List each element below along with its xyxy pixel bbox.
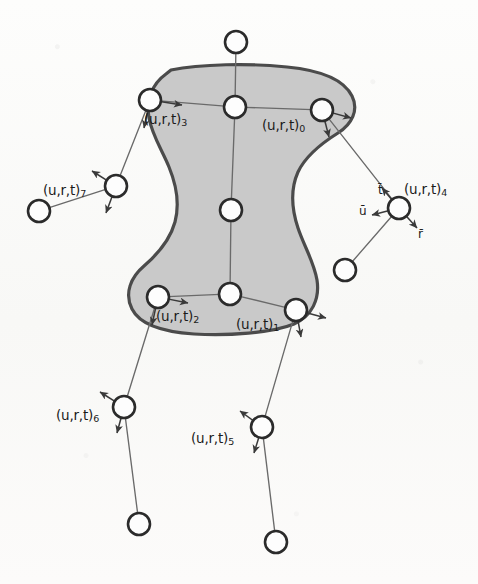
label-index: 3: [181, 117, 187, 128]
vec-u: ū: [359, 205, 367, 217]
link-line: [120, 109, 147, 176]
link-line: [265, 320, 293, 418]
link-line: [352, 216, 393, 263]
control-point-label-0: (u,r,t)0: [262, 119, 305, 134]
control-point-label-2: (u,r,t)2: [156, 310, 199, 325]
label-index: 2: [193, 314, 199, 325]
control-point-label-3: (u,r,t)3: [144, 113, 187, 128]
label-base: (u,r,t): [43, 182, 80, 198]
control-point-node-5[interactable]: [251, 416, 273, 438]
plain-node[interactable]: [220, 199, 242, 221]
label-index: 5: [228, 436, 234, 447]
label-index: 7: [80, 188, 86, 199]
control-point-node-6[interactable]: [113, 396, 135, 418]
control-point-node-1[interactable]: [285, 299, 307, 321]
link-line: [230, 220, 231, 284]
plain-node[interactable]: [225, 31, 247, 53]
link-line: [235, 52, 236, 97]
label-base: (u,r,t): [144, 111, 181, 127]
link-line: [263, 437, 275, 532]
plain-node[interactable]: [28, 200, 50, 222]
label-base: (u,r,t): [56, 407, 93, 423]
label-base: (u,r,t): [236, 316, 273, 332]
plain-node[interactable]: [128, 513, 150, 535]
control-point-node-3[interactable]: [139, 89, 161, 111]
control-point-label-7: (u,r,t)7: [43, 184, 86, 199]
control-point-label-5: (u,r,t)5: [191, 432, 234, 447]
label-index: 6: [93, 413, 99, 424]
link-line: [328, 118, 393, 200]
label-base: (u,r,t): [404, 181, 441, 197]
control-point-label-4: (u,r,t)4: [404, 183, 447, 198]
plain-node[interactable]: [224, 96, 246, 118]
control-point-node-7[interactable]: [105, 175, 127, 197]
diagram-canvas: (u,r,t)0(u,r,t)1(u,r,t)2(u,r,t)3(u,r,t)4…: [0, 0, 478, 584]
label-base: (u,r,t): [262, 117, 299, 133]
control-point-node-4[interactable]: [388, 197, 410, 219]
label-index: 4: [441, 187, 447, 198]
label-base: (u,r,t): [191, 430, 228, 446]
vec-r: r̄: [418, 228, 423, 240]
control-point-node-0[interactable]: [311, 99, 333, 121]
control-point-label-6: (u,r,t)6: [56, 409, 99, 424]
label-index: 0: [299, 123, 305, 134]
plain-node[interactable]: [265, 531, 287, 553]
shape-control-point-diagram: [0, 0, 478, 584]
plain-node[interactable]: [219, 283, 241, 305]
plain-node[interactable]: [334, 259, 356, 281]
label-base: (u,r,t): [156, 308, 193, 324]
label-index: 1: [273, 322, 279, 333]
control-point-node-2[interactable]: [147, 286, 169, 308]
control-point-label-1: (u,r,t)1: [236, 318, 279, 333]
link-line: [125, 417, 137, 514]
vec-t: t̄: [378, 184, 383, 196]
